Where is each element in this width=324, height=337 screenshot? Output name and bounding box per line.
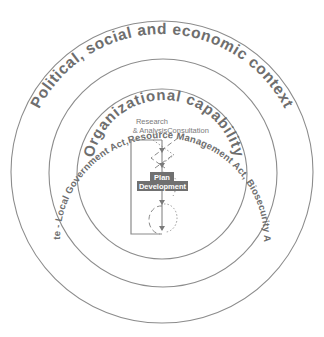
lower-dashed-loop [149, 206, 162, 234]
lower-dotted-loop [164, 204, 177, 232]
research-label-line1: Research [136, 117, 168, 126]
nested-context-diagram: Political, social and economic context M… [0, 0, 324, 337]
plan-label-line2: Development [139, 182, 187, 191]
research-label-line2: & Analysis [133, 126, 168, 135]
planning-process: Research & Analysis Consultation Plan De… [131, 117, 209, 234]
arrow-down-icon [159, 148, 165, 153]
arrow-down-icon [159, 226, 165, 231]
consultation-label: Consultation [167, 126, 209, 135]
plan-label-line1: Plan [154, 173, 170, 182]
